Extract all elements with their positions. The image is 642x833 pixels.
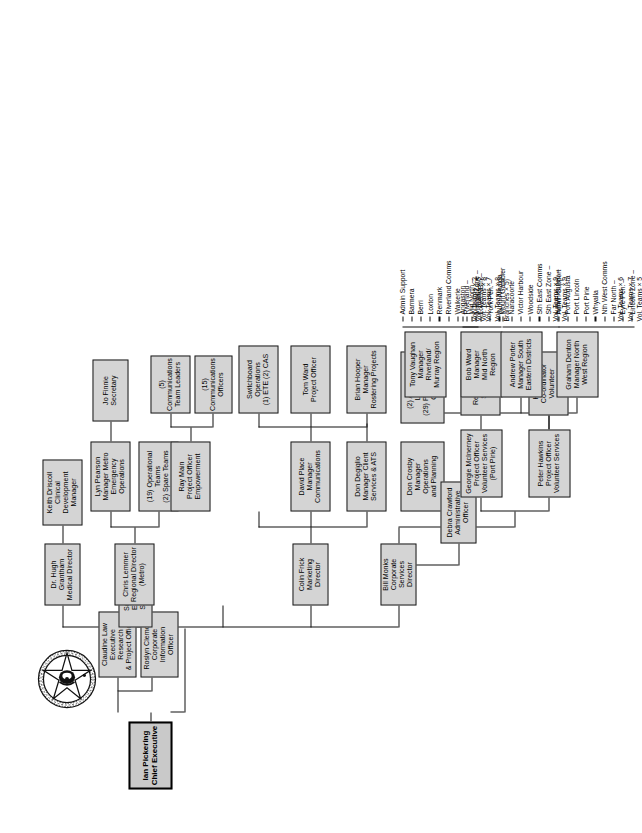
- node-chris-lemmer[interactable]: Chris Lemmer Regional Director (Metro): [114, 543, 154, 605]
- connector: [258, 426, 366, 427]
- leaf-item: Renmark: [435, 286, 442, 321]
- leaf-tick-icon: [622, 316, 623, 321]
- leaf-item: Victor Harbour: [516, 270, 523, 321]
- connector: [258, 526, 366, 527]
- leaf-tick-icon: [604, 316, 605, 321]
- leaf-item: Mount Gambier: [498, 267, 505, 321]
- leaf-tick-icon: [613, 316, 614, 321]
- connector: [548, 497, 549, 511]
- node-chief-executive[interactable]: Ian Pickering Chief Executive: [128, 721, 172, 789]
- leaf-item-label: Mount Gambier: [498, 267, 505, 314]
- node-peter-hawkins[interactable]: Peter Hawkins Project Officer Volunteer …: [528, 429, 570, 497]
- connector: [170, 711, 184, 712]
- leaf-item: Admin Support: [554, 269, 561, 321]
- node-ray-main[interactable]: Ray Main Project Officer Empowerment: [170, 441, 210, 511]
- node-bob-ward[interactable]: Bob Ward Manager Mid North Region: [460, 331, 502, 397]
- leaf-item: Berri: [416, 300, 423, 321]
- leaf-item: Port Lincoln: [572, 278, 579, 321]
- connector: [258, 511, 259, 527]
- leaf-tick-icon: [520, 316, 521, 321]
- leaf-tick-icon: [529, 316, 530, 321]
- node-graham-denton[interactable]: Graham Denton Manager North West Region: [556, 331, 598, 397]
- leaf-item-label: Riverland Comms: [444, 260, 451, 314]
- connector: [480, 510, 548, 511]
- connector: [117, 677, 118, 691]
- leaf-tick-icon: [558, 316, 559, 321]
- node-communications-team-leaders[interactable]: (5) Communications Team Leaders: [150, 355, 190, 413]
- leaf-tick-icon: [420, 316, 421, 321]
- leaf-tick-icon: [567, 316, 568, 321]
- node-bill-monks[interactable]: Bill Monks Corporate Services Director: [380, 543, 416, 605]
- connector: [310, 413, 311, 427]
- connector: [576, 397, 577, 413]
- leaf-tick-icon: [429, 316, 430, 321]
- connector: [398, 527, 399, 543]
- leaf-item-label: Admin Support: [554, 269, 561, 314]
- node-lyn-pearson[interactable]: Lyn Pearson Manager Metro Emergency Oper…: [90, 441, 130, 511]
- connector: [310, 605, 311, 627]
- leaf-item: Port Augusta: [563, 275, 570, 321]
- connector: [151, 677, 152, 691]
- connector: [134, 527, 135, 543]
- leaf-item: Sth East Comms: [535, 263, 542, 321]
- connector: [310, 427, 311, 441]
- leaf-item: Port Pirie: [582, 286, 589, 321]
- connector: [480, 415, 481, 429]
- leaf-item: Angaston: [458, 285, 465, 321]
- connector: [117, 690, 151, 691]
- leaf-tick-icon: [548, 316, 549, 321]
- leaf-item-label: Nth West Comms: [600, 261, 607, 314]
- node-communications-officers[interactable]: (15) Communications Officers: [194, 355, 232, 413]
- leaf-item-label: Naracoorte: [507, 280, 514, 314]
- leaf-tick-icon: [480, 316, 481, 321]
- connector: [514, 511, 515, 527]
- leaf-tick-icon: [462, 316, 463, 321]
- connector: [170, 413, 171, 427]
- connector: [62, 605, 63, 627]
- node-don-degiglio[interactable]: Don Degiglio Manager Client Services & A…: [346, 441, 386, 511]
- leaf-item-label: Berri: [416, 300, 423, 314]
- node-keith-driscoll[interactable]: Keith Driscoll Clinical Development Mana…: [42, 459, 82, 525]
- connector: [117, 691, 118, 712]
- connector: [480, 497, 481, 511]
- node-switchboard-operations[interactable]: Switchboard Operations (1) ETE (2) CAS: [238, 345, 278, 413]
- leaf-item: Lincoln Zone – Vol. Teams × 5: [628, 269, 642, 321]
- connector: [170, 426, 212, 427]
- leaf-item-label: Admin Support: [398, 269, 405, 314]
- leaf-item-label: Loxton: [426, 294, 433, 314]
- connector: [62, 525, 63, 543]
- leaf-item: Riverland Comms: [444, 260, 451, 321]
- leaf-item-label: Port Augusta: [563, 275, 570, 314]
- node-jo-finnie[interactable]: Jo Finnie Secretary: [92, 359, 128, 421]
- leaf-tick-icon: [471, 316, 472, 321]
- connector: [222, 605, 223, 627]
- connector: [310, 527, 311, 543]
- connector: [184, 628, 185, 712]
- leaf-item-label: Whyalla: [591, 290, 598, 314]
- leaf-item: Barmera: [407, 288, 414, 321]
- node-colin-frick[interactable]: Colin Frick Marketing Director: [292, 543, 328, 605]
- connector: [110, 526, 158, 527]
- connector: [258, 413, 259, 427]
- leaf-item-label: Barmera: [407, 288, 414, 314]
- leaf-item: Naracoorte: [507, 280, 514, 321]
- node-don-crosby[interactable]: Don Crosby Manager Operations and Planni…: [400, 441, 444, 511]
- node-tony-vaughan[interactable]: Tony Vaughan Manager Riverland/ Murray R…: [404, 331, 446, 397]
- node-dr-hugh-grantham[interactable]: Dr. Hugh Grantham Medical Director: [44, 543, 80, 605]
- connector: [110, 421, 111, 441]
- leaf-tick-icon: [585, 316, 586, 321]
- node-georgie-mcinerney[interactable]: Georgie McInerney Project Officer Volunt…: [460, 429, 502, 497]
- node-andrew-porter[interactable]: Andrew Porter Manager South Eastern Dist…: [500, 331, 542, 397]
- leaf-tick-icon: [538, 316, 539, 321]
- leaf-tick-icon: [502, 316, 503, 321]
- leaf-item: Loxton: [426, 294, 433, 321]
- node-david-place[interactable]: David Place Manager Communications: [290, 441, 330, 511]
- connector: [458, 543, 459, 565]
- leaf-rail: [502, 326, 559, 327]
- leaf-tick-icon: [402, 316, 403, 321]
- leaf-tick-icon: [594, 316, 595, 321]
- leaf-item-label: Angaston: [458, 285, 465, 314]
- node-brian-hooper[interactable]: Brian Hooper Manager Rostering Projects: [346, 345, 386, 413]
- node-tom-ward[interactable]: Tom Ward Project Officer: [290, 345, 330, 413]
